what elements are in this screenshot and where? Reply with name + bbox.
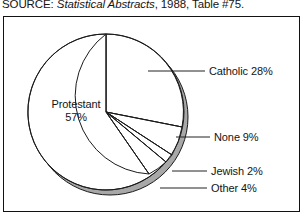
label-jewish: Jewish 2% bbox=[211, 165, 263, 177]
label-none: None 9% bbox=[214, 131, 259, 143]
pie-chart-graphic: Protestant 57% Catholic 28% None 9% Jewi… bbox=[0, 0, 305, 222]
label-catholic: Catholic 28% bbox=[209, 65, 273, 77]
slice-catholic[interactable] bbox=[106, 34, 183, 127]
pie-slices-group bbox=[28, 34, 184, 190]
label-other: Other 4% bbox=[211, 182, 257, 194]
label-protestant-name: Protestant bbox=[51, 98, 100, 110]
pie-chart-figure: SOURCE: Statistical Abstracts, 1988, Tab… bbox=[0, 0, 305, 222]
label-protestant-percent: 57% bbox=[65, 111, 87, 123]
